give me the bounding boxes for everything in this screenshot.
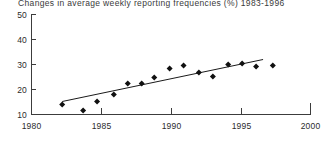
x-tick-marks — [32, 108, 311, 115]
data-point — [210, 74, 216, 80]
y-tick-label-30: 30 — [17, 60, 27, 70]
data-point-group — [59, 61, 276, 114]
x-tick-label-1980: 1980 — [22, 121, 42, 131]
data-point — [151, 75, 157, 81]
y-tick-marks — [32, 15, 37, 115]
data-point — [239, 61, 245, 67]
data-point — [167, 66, 173, 72]
x-tick-label-2000: 2000 — [301, 121, 321, 131]
chart-plot-area: 50 40 30 20 10 1980 1985 1990 1995 2000 — [0, 0, 329, 144]
y-tick-label-40: 40 — [17, 35, 27, 45]
data-point — [94, 99, 100, 105]
x-tick-label-1990: 1990 — [162, 121, 182, 131]
data-point — [270, 63, 276, 69]
data-point — [111, 92, 117, 98]
chart-container: Changes in average weekly reporting freq… — [0, 0, 329, 144]
data-point — [196, 70, 202, 76]
trend-line-segment — [62, 60, 263, 102]
y-tick-label-10: 10 — [17, 110, 27, 120]
y-tick-label-50: 50 — [17, 10, 27, 20]
x-tick-label-1995: 1995 — [232, 121, 252, 131]
y-tick-label-20: 20 — [17, 85, 27, 95]
data-point — [125, 81, 131, 87]
data-point — [59, 102, 65, 108]
trend-line — [62, 60, 263, 102]
data-point — [253, 64, 259, 70]
data-point — [80, 108, 86, 114]
x-tick-label-1985: 1985 — [92, 121, 112, 131]
data-point — [181, 63, 187, 69]
